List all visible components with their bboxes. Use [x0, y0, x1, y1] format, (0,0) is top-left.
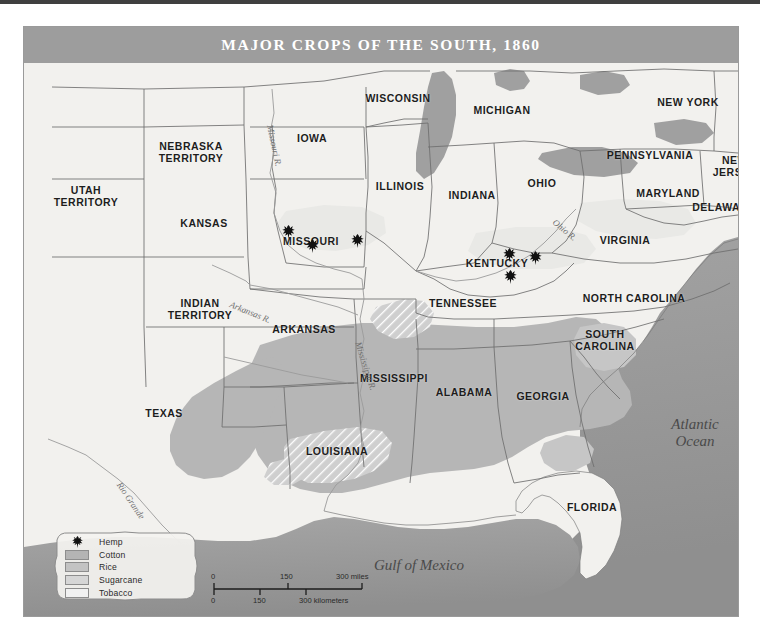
water-label-atlantic-ocean: Atlantic Ocean: [671, 416, 719, 450]
map-title-banner: MAJOR CROPS OF THE SOUTH, 1860: [24, 27, 738, 63]
scale-km-0: 0: [211, 596, 215, 605]
scale-miles-300: 300 miles: [336, 572, 369, 581]
swatch-fill: [65, 588, 89, 598]
state-label-nebraska-territory: NEBRASKA TERRITORY: [159, 141, 224, 164]
legend-item-tobacco: Tobacco: [63, 586, 201, 599]
state-label-louisiana: LOUISIANA: [306, 446, 368, 458]
legend-label-hemp: Hemp: [99, 537, 123, 547]
state-label-delaware: DELAWARE: [692, 202, 739, 214]
map-base-layer: [24, 27, 738, 616]
hemp-leaf-icon: [529, 251, 542, 269]
swatch-fill: [65, 575, 89, 585]
legend-label-tobacco: Tobacco: [99, 588, 132, 598]
state-label-kansas: KANSAS: [180, 218, 227, 230]
legend-item-rice: Rice: [63, 561, 201, 574]
state-label-indian-territory: INDIAN TERRITORY: [168, 298, 233, 321]
state-label-arkansas: ARKANSAS: [272, 324, 336, 336]
state-label-tennessee: TENNESSEE: [429, 298, 497, 310]
legend-label-sugarcane: Sugarcane: [99, 575, 142, 585]
hemp-leaf-icon: [504, 270, 517, 288]
state-label-michigan: MICHIGAN: [473, 105, 530, 117]
state-label-georgia: GEORGIA: [516, 391, 569, 403]
legend-swatch-sugarcane: [63, 575, 91, 585]
hemp-leaf-icon: [351, 234, 364, 252]
map-title: MAJOR CROPS OF THE SOUTH, 1860: [221, 36, 540, 54]
state-label-texas: TEXAS: [145, 408, 183, 420]
state-label-maryland: MARYLAND: [636, 188, 700, 200]
state-label-alabama: ALABAMA: [436, 387, 493, 399]
scale-miles-0: 0: [211, 572, 215, 581]
state-label-utah-territory: UTAH TERRITORY: [54, 185, 119, 208]
hemp-leaf-icon: [503, 248, 516, 266]
hemp-leaf-icon: [306, 239, 319, 257]
state-label-pennsylvania: PENNSYLVANIA: [607, 150, 694, 162]
hemp-leaf-icon: [63, 536, 91, 548]
hemp-leaf-icon: [282, 225, 295, 243]
scale-miles-150: 150: [280, 572, 293, 581]
map-figure: MAJOR CROPS OF THE SOUTH, 1860 WISCONSIN…: [23, 26, 739, 617]
swatch-fill: [65, 550, 89, 560]
state-label-south-carolina: SOUTH CAROLINA: [575, 329, 634, 352]
map-scale-bar: 0 150 300 miles 0 150 300 kilometers: [202, 572, 380, 606]
legend-swatch-rice: [63, 562, 91, 572]
legend-swatch-tobacco: [63, 588, 91, 598]
legend-label-cotton: Cotton: [99, 550, 126, 560]
state-label-north-carolina: NORTH CAROLINA: [583, 293, 686, 305]
state-label-virginia: VIRGINIA: [600, 235, 651, 247]
legend-swatch-cotton: [63, 550, 91, 560]
legend-item-cotton: Cotton: [63, 549, 201, 562]
state-label-kentucky: KENTUCKY: [466, 258, 528, 270]
scale-km-300: 300 kilometers: [299, 596, 348, 605]
state-label-florida: FLORIDA: [567, 502, 617, 514]
state-label-wisconsin: WISCONSIN: [365, 93, 430, 105]
water-label-gulf-of-mexico: Gulf of Mexico: [374, 557, 464, 574]
map-legend: HempCottonRiceSugarcaneTobacco: [51, 530, 203, 602]
legend-item-hemp: Hemp: [63, 536, 201, 549]
swatch-fill: [65, 562, 89, 572]
state-label-iowa: IOWA: [297, 133, 327, 145]
page-top-rule: [0, 0, 760, 4]
state-label-ohio: OHIO: [528, 178, 557, 190]
legend-item-sugarcane: Sugarcane: [63, 574, 201, 587]
state-label-indiana: INDIANA: [448, 190, 495, 202]
state-label-new-york: NEW YORK: [657, 97, 719, 109]
state-label-new-jersey: NEW JERSEY: [713, 155, 739, 178]
legend-label-rice: Rice: [99, 562, 117, 572]
state-label-illinois: ILLINOIS: [376, 181, 424, 193]
scale-km-150: 150: [253, 596, 266, 605]
legend-rows: HempCottonRiceSugarcaneTobacco: [63, 536, 201, 599]
